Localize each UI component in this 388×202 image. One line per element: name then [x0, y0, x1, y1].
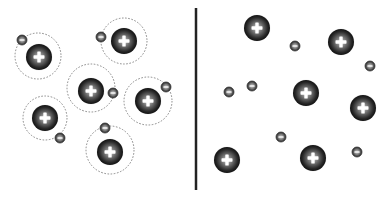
nucleus-icon [244, 15, 271, 42]
bound-atom [96, 18, 147, 64]
nucleus-icon [300, 145, 327, 172]
electron-icon [96, 32, 106, 42]
nucleus-icon [214, 147, 241, 174]
electron-icon [100, 123, 110, 133]
electron-icon [17, 35, 27, 45]
electron-icon [108, 88, 118, 98]
free-particles-panel [214, 15, 377, 174]
nucleus-icon [293, 80, 320, 107]
electron-icon [352, 147, 362, 157]
diagram-canvas [0, 0, 388, 202]
nucleus-icon [111, 28, 138, 55]
bound-atom [15, 33, 61, 79]
electron-icon [365, 61, 375, 71]
bound-atom [86, 123, 134, 174]
nucleus-icon [328, 29, 355, 56]
electron-icon [247, 81, 257, 91]
nucleus-icon [350, 95, 377, 122]
electron-icon [290, 41, 300, 51]
electron-icon [276, 132, 286, 142]
electron-icon [55, 133, 65, 143]
bound-atom [23, 96, 67, 143]
bound-atom [67, 64, 118, 112]
nucleus-icon [97, 139, 124, 166]
nucleus-icon [32, 105, 59, 132]
nucleus-icon [26, 44, 53, 71]
nucleus-icon [135, 88, 162, 115]
electron-icon [224, 87, 234, 97]
electron-icon [161, 82, 171, 92]
atom-diagram [0, 0, 388, 202]
bound-atom [124, 77, 172, 125]
bound-atoms-panel [15, 18, 172, 174]
nucleus-icon [78, 78, 105, 105]
